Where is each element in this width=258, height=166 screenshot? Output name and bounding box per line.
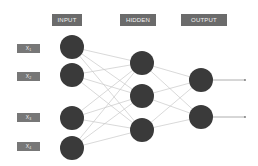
input-node-1 (60, 35, 84, 59)
input-label-2: X2 (17, 72, 40, 81)
hidden-node-3 (130, 118, 154, 142)
header-hidden: HIDDEN (120, 14, 156, 26)
output-node-2 (189, 105, 213, 129)
hidden-node-2 (130, 84, 154, 108)
input-label-3: X3 (17, 113, 40, 122)
header-output: OUTPUT (181, 14, 227, 26)
input-node-4 (60, 136, 84, 160)
hidden-nodes (130, 51, 154, 142)
input-nodes (60, 35, 84, 160)
input-label-4: X4 (17, 142, 40, 151)
input-node-2 (60, 63, 84, 87)
output-node-1 (189, 68, 213, 92)
input-node-3 (60, 106, 84, 130)
hidden-node-1 (130, 51, 154, 75)
input-label-1: X1 (17, 44, 40, 53)
output-nodes (189, 68, 213, 129)
header-input: INPUT (52, 14, 82, 26)
